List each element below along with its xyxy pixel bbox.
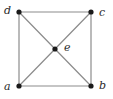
vertex-label-c: c	[99, 7, 105, 18]
graph-vertex-c	[88, 9, 93, 14]
vertex-label-e: e	[64, 42, 71, 53]
graph-vertex-a	[16, 83, 21, 88]
graph-canvas	[0, 0, 113, 99]
graph-edge-ae	[19, 49, 55, 86]
graph-edge-de	[19, 12, 55, 49]
graph-vertex-b	[88, 83, 93, 88]
graph-edge-ce	[55, 12, 91, 49]
vertex-label-d: d	[4, 5, 11, 16]
vertex-label-b: b	[99, 80, 106, 91]
vertex-label-a: a	[4, 81, 11, 92]
graph-figure: abcde	[0, 0, 113, 99]
graph-edge-be	[55, 49, 91, 86]
graph-vertex-d	[16, 9, 21, 14]
graph-vertex-e	[52, 46, 57, 51]
